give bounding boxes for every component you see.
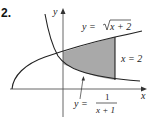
- upper-curve-label-expr: x + 2: [109, 21, 131, 32]
- vertical-line-label: x = 2: [120, 53, 142, 64]
- problem-number: 2.: [1, 6, 11, 20]
- y-axis-arrow-icon: [61, 8, 66, 14]
- y-axis-label: y: [52, 6, 58, 17]
- lower-curve-denominator: x + 1: [95, 105, 115, 115]
- upper-curve-label-prefix: y =: [81, 21, 98, 32]
- leader-arrow-icon: [82, 76, 86, 81]
- lower-curve-numerator: 1: [105, 92, 110, 102]
- lower-curve-label-prefix: y =: [73, 98, 90, 109]
- area-diagram: 2. y x y = x + 2 x = 2 y = 1 x + 1: [0, 0, 155, 128]
- x-axis-label: x: [140, 90, 146, 101]
